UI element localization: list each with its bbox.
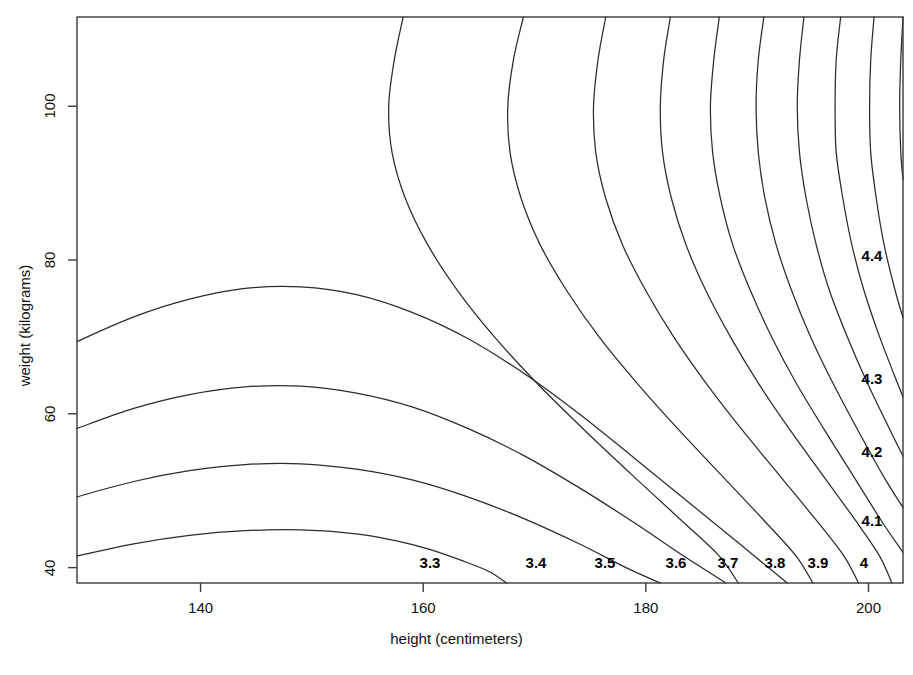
x-tick-label-140: 140 <box>188 599 213 616</box>
contour-label-3-6: 3.6 <box>666 554 687 571</box>
contour-label-4: 4 <box>860 554 868 571</box>
contour-line-3-2 <box>77 463 660 583</box>
contour-label-3-5: 3.5 <box>595 554 616 571</box>
contour-label-3-8: 3.8 <box>765 554 786 571</box>
contour-line-4-2 <box>870 17 903 318</box>
x-tick-label-160: 160 <box>411 599 436 616</box>
contour-lines-group <box>77 17 903 583</box>
plot-frame-group <box>77 17 903 583</box>
contour-label-4-4: 4.4 <box>862 247 883 264</box>
contour-label-4-2: 4.2 <box>862 443 883 460</box>
y-tick-label-40: 40 <box>41 559 58 576</box>
contour-line-3-1 <box>77 386 726 583</box>
x-axis-title: height (centimeters) <box>0 630 913 647</box>
y-tick-label-60: 60 <box>41 405 58 422</box>
contour-line-4-1 <box>835 17 903 397</box>
contour-line-3-3 <box>77 530 507 583</box>
contour-label-4-3: 4.3 <box>862 370 883 387</box>
contour-label-3-4: 3.4 <box>526 554 547 571</box>
contour-line-3-6 <box>593 17 858 583</box>
contour-line-3-7 <box>660 17 892 583</box>
x-tick-label-200: 200 <box>856 599 881 616</box>
plot-frame <box>77 17 903 583</box>
contour-label-3-3: 3.3 <box>420 554 441 571</box>
contour-label-4-1: 4.1 <box>862 512 883 529</box>
y-tick-label-80: 80 <box>41 252 58 269</box>
x-tick-label-180: 180 <box>633 599 658 616</box>
contour-line-3-4 <box>389 17 739 583</box>
contour-label-3-7: 3.7 <box>718 554 739 571</box>
y-axis-title: weight (kilograms) <box>16 216 33 436</box>
contour-line-3 <box>77 286 787 583</box>
plot-canvas <box>0 0 913 675</box>
contour-plot-figure: height (centimeters) weight (kilograms) … <box>0 0 913 675</box>
axis-ticks-group <box>68 106 868 592</box>
contour-label-3-9: 3.9 <box>808 554 829 571</box>
y-tick-label-100: 100 <box>41 94 58 119</box>
contour-line-3-8 <box>710 17 903 552</box>
